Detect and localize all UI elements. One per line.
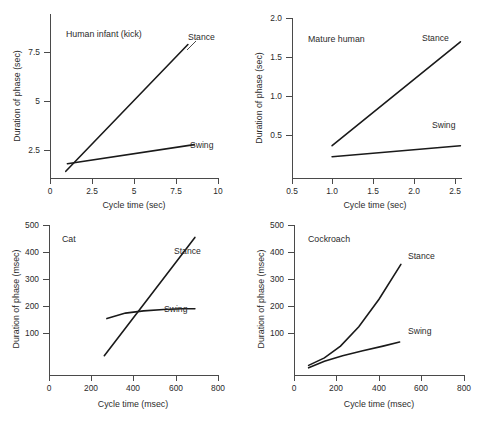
- xticklabel-cockroach-4: 800: [457, 383, 471, 393]
- yticklabel-human-infant-2: 2.5: [28, 145, 40, 155]
- series-label-swing-cat: Swing: [164, 304, 188, 314]
- xticklabel-cockroach-0: 0: [292, 383, 297, 393]
- series-label-swing-human-infant: Swing: [190, 140, 214, 150]
- xticklabel-cat-4: 800: [211, 383, 225, 393]
- xaxis-title-human-infant: Cycle time (sec): [102, 200, 165, 210]
- panel-title-mature-human: Mature human: [308, 34, 365, 44]
- yticklabel-cat-3: 200: [25, 301, 39, 311]
- yticklabel-cat-2: 300: [25, 274, 39, 284]
- panel-cat: 500 400 300 200 100 0 200 400 600 800 Cy…: [0, 211, 240, 423]
- series-label-swing-cockroach: Swing: [408, 326, 432, 336]
- series-label-stance-cat: Stance: [174, 246, 201, 256]
- xaxis-title-cockroach: Cycle time (msec): [344, 399, 414, 409]
- panel-mature-human: 2.0 1.5 1.0 0.5 0.5 1.0 1.5 2.0 2.5 Cycl…: [240, 0, 480, 212]
- xticklabel-cat-2: 400: [126, 383, 140, 393]
- xticklabel-cockroach-1: 200: [329, 383, 343, 393]
- figure-panel-grid: 7.5 5 2.5 0 2.5 5 7.5 10 Cycle time (sec…: [0, 0, 480, 423]
- panel-title-cat: Cat: [62, 234, 76, 244]
- yticklabel-mature-human-0: 2.0: [270, 13, 282, 23]
- yticklabel-human-infant-0: 7.5: [28, 47, 40, 57]
- yticklabel-mature-human-3: 0.5: [270, 130, 282, 140]
- curve-swing-mature-human: [332, 146, 460, 157]
- curve-stance-human-infant: [66, 45, 188, 172]
- curve-stance-mature-human: [332, 42, 460, 146]
- yaxis-title-human-infant: Duration of phase (sec): [12, 50, 22, 142]
- xticklabel-mature-human-3: 2.0: [408, 186, 420, 196]
- yticklabel-cockroach-3: 200: [270, 301, 284, 311]
- yticklabel-mature-human-2: 1.0: [270, 91, 282, 101]
- yticklabel-cat-1: 400: [25, 247, 39, 257]
- yticklabel-human-infant-1: 5: [35, 96, 40, 106]
- yticklabel-cat-4: 100: [25, 328, 39, 338]
- xticklabel-mature-human-4: 2.5: [449, 186, 461, 196]
- leader-stance-human-infant: [187, 41, 196, 50]
- curve-stance-cockroach: [309, 264, 401, 365]
- xticklabel-human-infant-2: 5: [132, 186, 137, 196]
- panel-cockroach: 500 400 300 200 100 0 200 400 600 800 Cy…: [240, 211, 480, 423]
- panel-human-infant: 7.5 5 2.5 0 2.5 5 7.5 10 Cycle time (sec…: [0, 0, 240, 212]
- xticklabel-cat-0: 0: [47, 383, 52, 393]
- xticklabel-cockroach-2: 400: [372, 383, 386, 393]
- yticklabel-cat-0: 500: [25, 220, 39, 230]
- yticklabel-cockroach-0: 500: [270, 220, 284, 230]
- yticklabel-mature-human-1: 1.5: [270, 52, 282, 62]
- yticklabel-cockroach-1: 400: [270, 247, 284, 257]
- panel-title-human-infant: Human infant (kick): [66, 29, 142, 39]
- series-label-stance-cockroach: Stance: [408, 251, 435, 261]
- yticklabel-cockroach-2: 300: [270, 274, 284, 284]
- series-label-stance-mature-human: Stance: [422, 33, 449, 43]
- xticklabel-human-infant-1: 2.5: [86, 186, 98, 196]
- series-label-swing-mature-human: Swing: [432, 120, 456, 130]
- xticklabel-mature-human-0: 0.5: [286, 186, 298, 196]
- xticklabel-human-infant-4: 10: [213, 186, 223, 196]
- yaxis-title-mature-human: Duration of phase (sec): [254, 52, 264, 144]
- panel-title-cockroach: Cockroach: [308, 234, 350, 244]
- yaxis-title-cockroach: Duration of phase (msec): [256, 250, 266, 349]
- xticklabel-mature-human-1: 1.0: [326, 186, 338, 196]
- yticklabel-cockroach-4: 100: [270, 328, 284, 338]
- xaxis-title-cat: Cycle time (msec): [98, 399, 168, 409]
- xticklabel-human-infant-3: 7.5: [170, 186, 182, 196]
- series-label-stance-human-infant: Stance: [188, 32, 215, 42]
- xaxis-title-mature-human: Cycle time (sec): [343, 200, 406, 210]
- xticklabel-cat-3: 600: [169, 383, 183, 393]
- curve-swing-cockroach: [309, 342, 400, 368]
- xticklabel-cockroach-3: 600: [414, 383, 428, 393]
- xticklabel-human-infant-0: 0: [48, 186, 53, 196]
- xticklabel-mature-human-2: 1.5: [367, 186, 379, 196]
- curve-swing-human-infant: [67, 145, 194, 164]
- yaxis-title-cat: Duration of phase (msec): [11, 250, 21, 349]
- xticklabel-cat-1: 200: [84, 383, 98, 393]
